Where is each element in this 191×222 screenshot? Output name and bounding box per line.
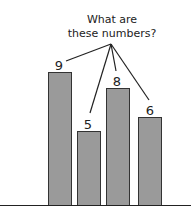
bar-label-4: 6 <box>146 103 154 118</box>
bar-diagram: What are these numbers? 9 5 8 6 <box>0 0 191 222</box>
bar-label-1: 9 <box>55 58 63 73</box>
question-line-2: these numbers? <box>68 27 157 40</box>
bar-2 <box>78 132 101 206</box>
bar-label-3: 8 <box>113 74 121 89</box>
bar-label-2: 5 <box>84 117 92 132</box>
bar-1 <box>49 73 72 206</box>
bar-4 <box>139 118 162 206</box>
question-line-1: What are <box>87 13 137 26</box>
bar-3 <box>107 89 130 206</box>
